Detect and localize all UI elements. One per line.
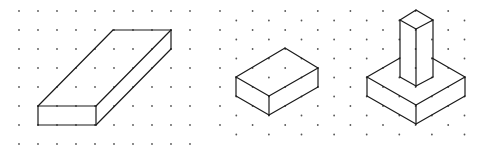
- grid-dot: [235, 115, 237, 117]
- grid-dot: [94, 29, 96, 31]
- grid-dot: [464, 58, 466, 60]
- grid-dot: [189, 10, 191, 12]
- grid-dot: [18, 67, 20, 69]
- grid-dot: [219, 48, 221, 50]
- grid-dot: [75, 29, 77, 31]
- grid-dot: [189, 67, 191, 69]
- grid-dot: [252, 124, 254, 126]
- grid-dot: [268, 134, 270, 136]
- grid-dot: [284, 10, 286, 12]
- grid-dot: [301, 134, 303, 136]
- figure-edge: [236, 48, 285, 77]
- grid-dot: [398, 134, 400, 136]
- grid-dot: [350, 48, 352, 50]
- figure-edge: [96, 49, 171, 125]
- dot-paper-diagram: [0, 0, 483, 148]
- grid-dot: [37, 48, 39, 50]
- grid-dot: [464, 115, 466, 117]
- grid-dot: [219, 124, 221, 126]
- grid-dot: [56, 48, 58, 50]
- grid-dot: [350, 124, 352, 126]
- grid-dot: [189, 86, 191, 88]
- grid-dot: [132, 143, 134, 145]
- figure-edge: [416, 20, 433, 29]
- grid-dot: [113, 143, 115, 145]
- grid-dot: [18, 48, 20, 50]
- grid-dot: [94, 86, 96, 88]
- grid-dot: [219, 105, 221, 107]
- grid-dot: [18, 124, 20, 126]
- grid-dot: [317, 105, 319, 107]
- grid-dot: [75, 143, 77, 145]
- grid-dot: [170, 124, 172, 126]
- grid-dot: [132, 105, 134, 107]
- grid-dot: [350, 29, 352, 31]
- grid-dot: [447, 10, 449, 12]
- grid-dot: [235, 39, 237, 41]
- grid-dot: [37, 67, 39, 69]
- grid-dot: [170, 67, 172, 69]
- grid-dot: [75, 48, 77, 50]
- grid-dot: [219, 10, 221, 12]
- grid-dot: [18, 10, 20, 12]
- grid-dot: [317, 10, 319, 12]
- grid-dot: [284, 67, 286, 69]
- grid-dot: [235, 134, 237, 136]
- grid-dot: [333, 115, 335, 117]
- grid-dot: [151, 124, 153, 126]
- grid-dot: [382, 48, 384, 50]
- figure-edge: [96, 30, 171, 106]
- grid-dot: [382, 124, 384, 126]
- grid-dot: [301, 115, 303, 117]
- grid-dot: [189, 48, 191, 50]
- grid-dot: [301, 20, 303, 22]
- figure-edge: [367, 58, 400, 77]
- grid-dot: [132, 124, 134, 126]
- grid-dot: [252, 48, 254, 50]
- grid-dot: [170, 105, 172, 107]
- grid-dot: [56, 67, 58, 69]
- grid-dot: [464, 20, 466, 22]
- figure-edge: [236, 77, 269, 96]
- grid-dot: [219, 86, 221, 88]
- grid-dot: [170, 86, 172, 88]
- figure-edge: [400, 77, 416, 86]
- grid-dot: [464, 134, 466, 136]
- grid-dot: [94, 67, 96, 69]
- grid-dot: [189, 29, 191, 31]
- grid-dot: [219, 29, 221, 31]
- grid-dot: [284, 124, 286, 126]
- figure-edge: [432, 58, 465, 77]
- grid-dot: [37, 29, 39, 31]
- grid-dot: [219, 67, 221, 69]
- grid-dot: [235, 58, 237, 60]
- grid-dot: [333, 96, 335, 98]
- grid-dot: [333, 58, 335, 60]
- grid-dot: [37, 86, 39, 88]
- grid-dot: [37, 143, 39, 145]
- grid-dot: [382, 29, 384, 31]
- grid-dot: [333, 20, 335, 22]
- grid-dot: [94, 143, 96, 145]
- figure-edge: [285, 48, 318, 68]
- grid-dot: [189, 143, 191, 145]
- grid-dot: [113, 124, 115, 126]
- grid-dot: [350, 67, 352, 69]
- figure-edge: [38, 30, 113, 106]
- figure-edge: [236, 96, 269, 115]
- grid-dot: [252, 29, 254, 31]
- isometric-pillar-on-base: [367, 10, 465, 124]
- grid-dot: [431, 134, 433, 136]
- grid-dot: [151, 143, 153, 145]
- grid-dot: [37, 10, 39, 12]
- grid-dot: [252, 10, 254, 12]
- grid-dot: [301, 39, 303, 41]
- grid-dot: [333, 134, 335, 136]
- grid-dot: [18, 143, 20, 145]
- grid-dot: [56, 10, 58, 12]
- grid-dot: [350, 105, 352, 107]
- grid-dot: [94, 10, 96, 12]
- grid-dot: [75, 86, 77, 88]
- grid-dot: [366, 58, 368, 60]
- grid-dot: [235, 20, 237, 22]
